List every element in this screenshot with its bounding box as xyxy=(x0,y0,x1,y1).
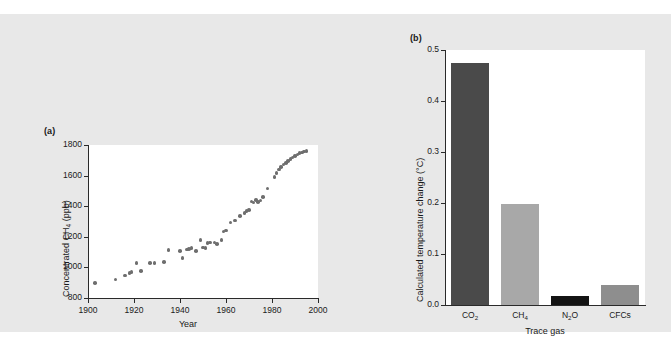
scatter-y-tick-label: 1600 xyxy=(46,170,82,180)
scatter-point xyxy=(247,208,251,212)
panel-a-methane-concentration: (a) 800100012001400160018001900192019401… xyxy=(0,14,360,332)
scatter-x-tick xyxy=(88,299,89,303)
scatter-point xyxy=(123,274,127,278)
scatter-point xyxy=(135,261,139,265)
scatter-x-tick xyxy=(226,299,227,303)
scatter-point xyxy=(194,249,198,253)
bar-CH4 xyxy=(501,204,539,305)
scatter-point xyxy=(148,261,152,265)
scatter-y-tick xyxy=(84,206,88,207)
scatter-point xyxy=(224,229,228,233)
scatter-point xyxy=(178,249,182,253)
bar-y-tick xyxy=(441,203,445,204)
scatter-x-tick-label: 1900 xyxy=(68,305,108,315)
bar-y-tick xyxy=(441,254,445,255)
scatter-point xyxy=(261,195,265,199)
figure-canvas: (a) 800100012001400160018001900192019401… xyxy=(0,14,671,332)
bar-y-tick-label: 0.3 xyxy=(405,146,439,156)
bar-y-tick xyxy=(441,305,445,306)
bar-x-tick-label: CFCs xyxy=(590,310,650,320)
scatter-x-tick-label: 2000 xyxy=(298,305,338,315)
bar-CO2 xyxy=(451,63,489,305)
scatter-point xyxy=(215,242,219,246)
scatter-point xyxy=(204,246,208,250)
bar-CFCs xyxy=(601,285,639,305)
scatter-x-axis-title: Year xyxy=(179,319,197,329)
scatter-point xyxy=(181,256,185,260)
scatter-point xyxy=(190,246,194,250)
bar-x-axis-title: Trace gas xyxy=(525,326,565,336)
bar-y-tick-label: 0.5 xyxy=(405,44,439,54)
bar-N2O xyxy=(551,296,589,305)
scatter-y-tick xyxy=(84,237,88,238)
bar-y-axis-line xyxy=(445,50,446,306)
scatter-y-axis-line xyxy=(88,145,89,299)
scatter-point xyxy=(139,269,143,273)
scatter-x-tick-label: 1920 xyxy=(114,305,154,315)
scatter-y-tick xyxy=(84,176,88,177)
scatter-x-tick xyxy=(180,299,181,303)
scatter-point xyxy=(208,241,212,245)
scatter-y-tick-label: 1800 xyxy=(46,139,82,149)
scatter-point xyxy=(220,238,224,242)
panel-b-label: (b) xyxy=(410,33,422,43)
scatter-point xyxy=(273,175,277,179)
scatter-y-axis-title-text: Concentrated CH4 (ppb) xyxy=(61,200,71,297)
scatter-x-tick-label: 1960 xyxy=(206,305,246,315)
panel-b-temperature-change: (b) 0.00.10.20.30.40.5CO2CH4N2OCFCs Trac… xyxy=(360,14,671,332)
bar-y-tick xyxy=(441,152,445,153)
scatter-point xyxy=(162,260,166,264)
scatter-y-tick xyxy=(84,267,88,268)
scatter-x-axis-line xyxy=(88,298,319,299)
scatter-point xyxy=(305,149,309,153)
bar-y-axis-title: Calculated temperature change (°C) xyxy=(415,158,425,302)
scatter-y-axis-title: Concentrated CH4 (ppb) xyxy=(61,200,71,297)
scatter-x-tick-label: 1940 xyxy=(160,305,200,315)
scatter-x-tick xyxy=(272,299,273,303)
scatter-point xyxy=(238,214,242,218)
scatter-x-tick xyxy=(134,299,135,303)
bar-x-axis-line xyxy=(445,305,646,306)
bar-y-tick xyxy=(441,50,445,51)
bar-y-tick xyxy=(441,101,445,102)
scatter-x-tick xyxy=(318,299,319,303)
scatter-y-tick xyxy=(84,145,88,146)
panel-a-label: (a) xyxy=(44,126,55,136)
scatter-point xyxy=(93,281,97,285)
scatter-x-tick-label: 1980 xyxy=(252,305,292,315)
bar-y-tick-label: 0.4 xyxy=(405,95,439,105)
